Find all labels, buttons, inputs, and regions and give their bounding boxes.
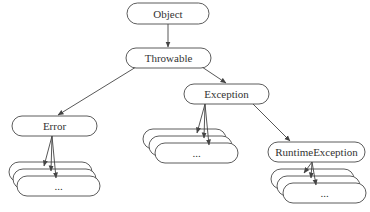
- stack-runtime-exception-subclasses-pill-3: ...: [283, 183, 366, 203]
- edge-throwable-to-exception: [202, 67, 226, 83]
- node-error: Error: [12, 116, 97, 136]
- class-hierarchy-diagram: ......... ObjectThrowableExceptionErrorR…: [0, 0, 370, 212]
- stack-error-subclasses: ...: [9, 136, 100, 196]
- stack-error-subclasses-pill-3-label: ...: [54, 180, 63, 192]
- node-object-label: Object: [153, 8, 182, 20]
- stack-runtime-exception-subclasses-pill-3-label: ...: [320, 187, 329, 199]
- stack-exception-subclasses-pill-3: ...: [155, 143, 238, 163]
- node-object: Object: [127, 3, 209, 24]
- node-runtime-exception: RuntimeException: [268, 142, 365, 162]
- edge-throwable-to-error: [58, 67, 136, 115]
- node-runtime-exception-label: RuntimeException: [275, 146, 358, 158]
- stack-exception-subclasses-pill-3-label: ...: [192, 147, 201, 159]
- stack-runtime-exception-subclasses: ...: [271, 162, 366, 203]
- stack-exception-subclasses: ...: [143, 104, 238, 163]
- edge-exception-to-runtime-exception: [252, 103, 290, 141]
- node-throwable: Throwable: [126, 48, 211, 68]
- edge-error-to-subclass-1: [44, 136, 52, 166]
- node-exception: Exception: [184, 84, 269, 104]
- stack-error-subclasses-pill-3: ...: [17, 176, 100, 196]
- node-throwable-label: Throwable: [145, 52, 193, 64]
- node-exception-label: Exception: [204, 88, 249, 100]
- node-error-label: Error: [43, 120, 67, 132]
